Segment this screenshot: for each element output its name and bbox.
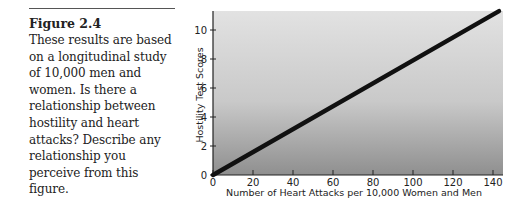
x-tick-label: 140 <box>483 177 502 188</box>
line-chart: 0246810 020406080100120140 Hostility Tes… <box>0 0 528 201</box>
x-axis-label: Number of Heart Attacks per 10,000 Women… <box>226 187 482 198</box>
y-axis-label: Hostility Test Scores <box>194 47 205 142</box>
y-tick-label: 10 <box>194 25 207 36</box>
y-tick-label: 0 <box>201 170 207 181</box>
x-tick-label: 0 <box>210 177 216 188</box>
